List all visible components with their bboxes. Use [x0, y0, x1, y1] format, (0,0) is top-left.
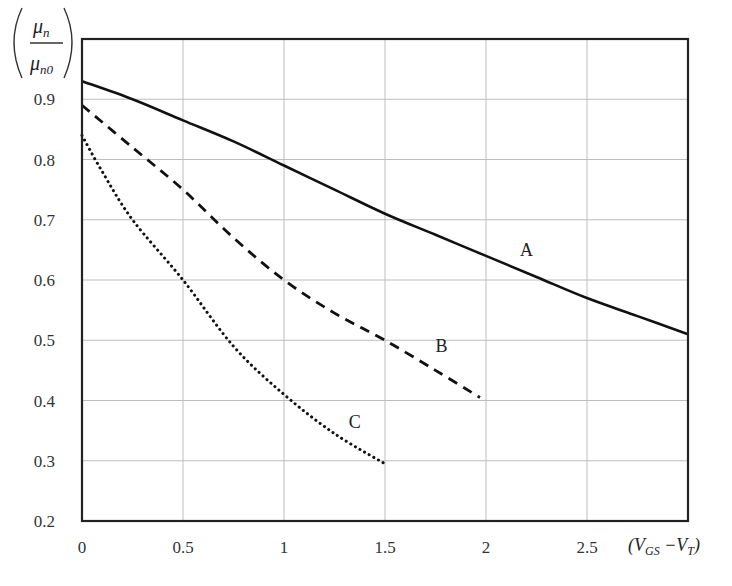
chart: 0.20.30.40.50.60.70.80.9 00.511.522.5 AB… [0, 0, 732, 586]
y-axis-ticks: 0.20.30.40.50.60.70.80.9 [34, 90, 56, 531]
y-tick-label: 0.5 [34, 331, 55, 350]
curve-c [82, 135, 385, 463]
curve-label-c: C [349, 412, 361, 432]
left-paren [14, 8, 22, 78]
x-tick-label: 0.5 [172, 538, 193, 557]
curve-label-a: A [520, 240, 533, 260]
curve-label-b: B [436, 336, 448, 356]
grid-lines [82, 39, 688, 521]
y-label-denominator: μ [29, 52, 40, 75]
svg-text:μn: μn [32, 15, 50, 40]
y-tick-label: 0.8 [34, 151, 55, 170]
y-tick-label: 0.7 [34, 211, 56, 230]
x-label-mid: −V [660, 535, 690, 555]
y-tick-label: 0.2 [34, 512, 55, 531]
x-label-sub-gs: GS [645, 544, 660, 558]
x-tick-label: 1.5 [374, 538, 395, 557]
y-label-numerator: μ [32, 15, 43, 38]
x-axis-label: (VGS −VT) [628, 535, 700, 558]
y-tick-label: 0.4 [34, 392, 56, 411]
curve-b [82, 105, 480, 397]
x-label-close: ) [693, 535, 700, 556]
y-label-numerator-sub: n [43, 25, 50, 40]
x-tick-label: 1 [280, 538, 289, 557]
y-tick-label: 0.3 [34, 452, 55, 471]
y-tick-label: 0.9 [34, 90, 55, 109]
x-tick-label: 2 [482, 538, 491, 557]
x-axis-ticks: 00.511.522.5 [78, 538, 598, 557]
y-tick-label: 0.6 [34, 271, 55, 290]
x-tick-label: 0 [78, 538, 87, 557]
y-axis-label: μn μn0 [14, 8, 72, 78]
svg-text:μn0: μn0 [29, 52, 54, 77]
y-label-denominator-sub: n0 [40, 62, 54, 77]
right-paren [64, 8, 72, 78]
x-tick-label: 2.5 [576, 538, 597, 557]
